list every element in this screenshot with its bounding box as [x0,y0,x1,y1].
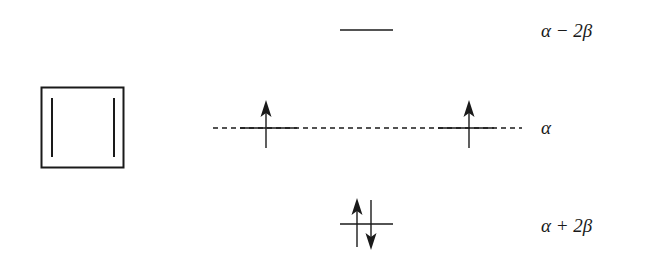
electron-down-arrow [366,200,377,250]
cyclobutadiene-structure [42,88,124,168]
energy-label-bonding: α + 2β [541,215,593,236]
ring-outline [42,88,124,168]
electron-up-arrow [464,100,475,148]
electron-up-arrow [261,100,272,148]
energy-label-nonbonding: α [541,117,552,138]
mo-diagram: α − 2β α α + 2β [0,0,645,263]
electron-up-arrow [352,198,363,247]
level-bonding [340,198,393,250]
level-nonbonding [213,100,522,148]
energy-label-antibonding: α − 2β [541,20,593,41]
